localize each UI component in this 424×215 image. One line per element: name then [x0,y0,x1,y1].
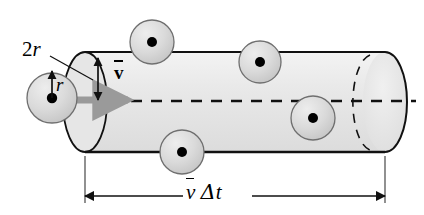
particle-center-dot [177,147,187,157]
velocity-label: v [114,62,124,84]
length-label: v Δt [186,180,222,205]
particle-lower-right [291,96,335,140]
particle-center-dot [308,113,318,123]
radius-label: r [56,74,63,96]
particle-top [130,20,174,64]
radius-label-symbol: r [56,74,63,95]
diameter-label-number: 2 [22,37,33,61]
physics-figure-cylinder-sweep: 2r r v v Δt [0,0,424,215]
length-label-velocity: v [186,180,195,205]
length-dimension-group [85,156,385,203]
velocity-label-symbol: v [114,62,124,84]
length-label-time: t [216,180,222,204]
diameter-label-symbol: r [33,37,41,61]
particle-upper-right [239,41,281,83]
particle-center-dot [255,57,265,67]
diameter-label: 2r [22,37,41,62]
length-label-delta: Δ [201,180,216,204]
particle-center-dot [147,37,157,47]
particle-bottom [160,130,204,174]
